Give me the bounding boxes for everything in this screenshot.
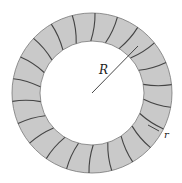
minor-radius-label: r <box>164 129 170 140</box>
toroid-diagram: R r <box>0 0 182 183</box>
major-radius-label: R <box>98 63 108 77</box>
